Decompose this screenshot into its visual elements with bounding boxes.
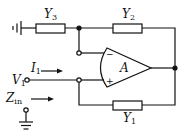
circuit-labels: Y3 Y2 Y1 A − + I1 V1 Zin xyxy=(0,0,184,139)
sign-noninverting: + xyxy=(106,76,114,86)
label-opamp-a: A xyxy=(119,61,129,75)
label-zin: Zin xyxy=(5,91,22,106)
sign-inverting: − xyxy=(106,49,114,59)
label-i1: I1 xyxy=(30,61,41,76)
label-y1: Y1 xyxy=(123,111,136,126)
label-y3: Y3 xyxy=(44,7,57,22)
label-v1: V1 xyxy=(12,73,26,88)
label-y2: Y2 xyxy=(122,7,135,22)
